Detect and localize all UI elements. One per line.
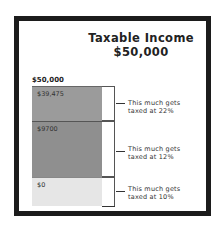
subtitle-text: $50,000: [88, 45, 194, 59]
note-10-line1: This much gets: [128, 185, 180, 193]
note-22: This much gets taxed at 22%: [128, 99, 180, 115]
connector-10: [116, 191, 125, 192]
segment-label-22: $39,475: [37, 90, 64, 98]
bar-bottom-tick: [102, 206, 115, 207]
bar-segment-10: $0: [32, 177, 102, 206]
note-12-line1: This much gets: [128, 145, 180, 153]
segment-outline-22: [102, 86, 115, 121]
connector-22: [116, 103, 125, 104]
note-22-line1: This much gets: [128, 99, 180, 107]
note-10-line2: taxed at 10%: [128, 193, 180, 201]
connector-12: [116, 151, 125, 152]
title-text: Taxable Income: [88, 31, 194, 45]
segment-label-10: $0: [37, 181, 45, 189]
chart-frame: Taxable Income $50,000 $50,000 $39,475 $…: [14, 16, 211, 216]
bar-segment-22: $39,475: [32, 86, 102, 121]
segment-outline-12: [102, 121, 115, 177]
segment-label-12: $9700: [37, 125, 58, 133]
bar-top-label: $50,000: [32, 76, 64, 84]
note-12: This much gets taxed at 12%: [128, 145, 180, 161]
note-10: This much gets taxed at 10%: [128, 185, 180, 201]
note-22-line2: taxed at 22%: [128, 107, 180, 115]
segment-outline-10: [102, 177, 115, 206]
bar-segment-12: $9700: [32, 121, 102, 177]
chart-title: Taxable Income $50,000: [88, 31, 194, 59]
note-12-line2: taxed at 12%: [128, 153, 180, 161]
